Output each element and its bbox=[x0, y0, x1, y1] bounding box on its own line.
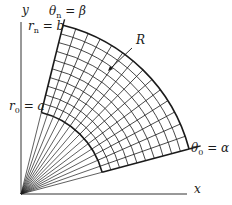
fan-ray bbox=[21, 122, 65, 194]
radial-fan-lines bbox=[21, 112, 102, 194]
polar-grid-region bbox=[43, 29, 185, 170]
fan-ray bbox=[21, 149, 92, 194]
r-0-label: r0 = a bbox=[9, 100, 45, 115]
r-n-label: rn = b bbox=[28, 20, 64, 35]
region-label: R bbox=[136, 34, 145, 46]
fan-ray bbox=[21, 134, 80, 194]
y-axis-label: y bbox=[22, 4, 29, 16]
theta-n-label: θn = β bbox=[49, 5, 86, 20]
x-axis-label: x bbox=[194, 183, 201, 195]
theta-0-label: θ0 = α bbox=[191, 142, 229, 157]
